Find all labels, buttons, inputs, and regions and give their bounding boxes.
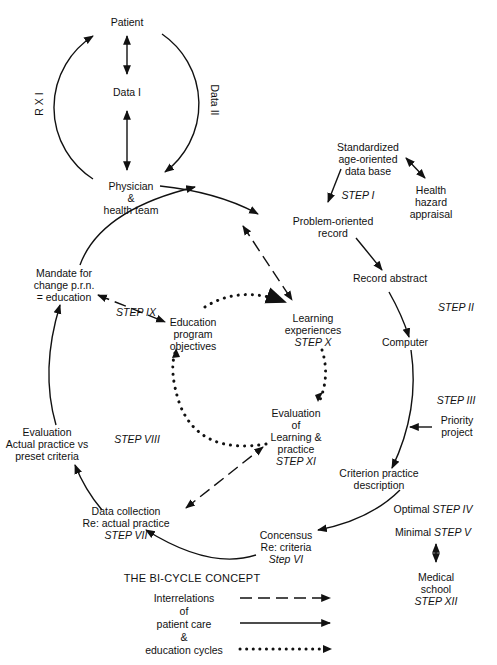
datacollection-evaluationlearning-dashed	[186, 447, 263, 508]
evaluation-to-mandate	[49, 305, 60, 425]
rx-arc	[54, 36, 93, 179]
concensus-node: ConcensusRe: criteriaStep VI	[260, 529, 313, 565]
standardized-node: Standardizedage-orienteddata base	[337, 141, 399, 177]
minimal-step5: Minimal STEP V	[395, 526, 471, 538]
priority-project-node: Priorityproject	[441, 414, 474, 438]
optimal-step4: Optimal STEP IV	[394, 503, 473, 515]
standardized-hazard-arrow	[406, 158, 425, 178]
criterion-node: Criterion practicedescription	[339, 467, 418, 491]
evaluation-node: EvaluationActual practice vspreset crite…	[6, 426, 88, 462]
bi-cycle-diagram	[0, 0, 497, 665]
health-hazard-node: Healthhazardappraisal	[410, 184, 453, 220]
physician-to-problem	[160, 186, 258, 214]
record-abstract-node: Record abstract	[353, 272, 427, 284]
criterion-to-concensus	[318, 490, 400, 530]
patient-label: Patient	[111, 16, 144, 28]
diagram-title: THE BI-CYCLE CONCEPT	[124, 572, 261, 584]
data1-label: Data I	[113, 86, 141, 98]
learning-node: LearningexperiencesSTEP X	[285, 312, 342, 348]
problem-to-abstract	[356, 238, 382, 270]
learning-to-evaluation-dotted	[320, 350, 326, 400]
computer-node: Computer	[382, 336, 428, 348]
mandate-node: Mandate forchange p.r.n.= education	[34, 267, 95, 303]
education-objectives-node: Educationprogramobjectives	[170, 316, 217, 352]
step1-label: STEP I	[342, 189, 375, 201]
medical-school-node: MedicalschoolSTEP XII	[415, 571, 458, 607]
evaluation-to-objectives-dotted	[173, 350, 266, 446]
step3-label: STEP III	[437, 394, 476, 406]
problem-record-node: Problem-orientedrecord	[293, 215, 374, 239]
step9-label: STEP IX	[116, 306, 156, 318]
computer-to-criterion	[392, 350, 413, 468]
rx-label: R X I	[33, 92, 45, 115]
abstract-to-computer	[389, 292, 409, 337]
evaluation-learning-node: EvaluationofLearning &practiceSTEP XI	[271, 407, 322, 467]
data2-arc	[162, 34, 199, 172]
step8-label: STEP VIII	[114, 433, 160, 445]
data-collection-node: Data collectionRe: actual practiceSTEP V…	[83, 505, 170, 541]
datacollection-to-evaluation	[75, 465, 102, 510]
legend-text: Interrelationsofpatient care&education c…	[145, 592, 223, 657]
physician-node: Physician&health team	[104, 180, 159, 216]
objectives-to-learning-dotted	[205, 295, 285, 307]
physician-learning-dashed	[243, 226, 292, 300]
data2-label: Data II	[209, 85, 221, 116]
step2-label: STEP II	[438, 301, 474, 313]
